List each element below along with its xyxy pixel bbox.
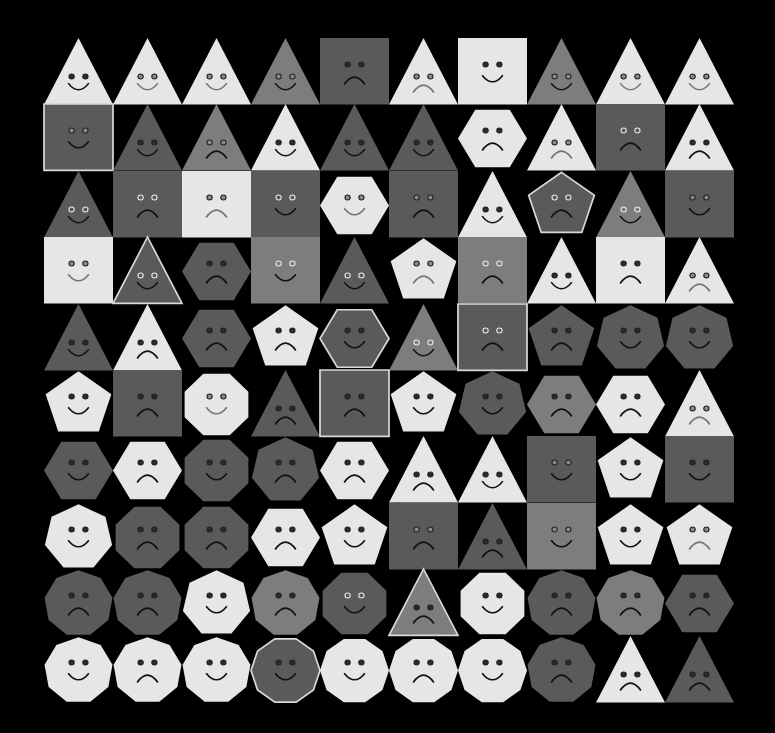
hexagon-icon [320,304,389,370]
decagon-happy-face [458,636,527,702]
eye-icon [621,128,626,133]
nonagon-icon [44,636,113,702]
nonagon-sad-face [113,569,182,635]
square-icon [458,237,527,303]
square-icon [44,237,113,303]
eye-icon [704,140,709,145]
eye-icon [276,406,281,411]
triangle-icon [458,503,527,569]
triangle-icon [389,104,458,170]
heptagon-icon [665,304,734,370]
eye-icon [207,593,212,598]
eye-icon [414,195,419,200]
eye-icon [483,128,488,133]
triangle-happy-face [596,38,665,104]
triangle-sad-face [458,503,527,569]
square-happy-face [527,503,596,569]
pentagon-happy-face [44,370,113,436]
eye-icon [290,460,295,465]
triangle-icon [113,237,182,303]
heptagon-icon [596,304,665,370]
hexagon-icon [44,436,113,502]
eye-icon [152,527,157,532]
square-happy-face [251,171,320,237]
eye-icon [276,660,281,665]
nonagon-sad-face [527,636,596,702]
heptagon-icon [458,370,527,436]
nonagon-sad-face [527,569,596,635]
triangle-sad-face [527,104,596,170]
triangle-happy-face [44,38,113,104]
eye-icon [428,527,433,532]
eye-icon [359,273,364,278]
eye-icon [428,340,433,345]
eye-icon [83,460,88,465]
eye-icon [207,328,212,333]
triangle-icon [113,304,182,370]
square-happy-face [458,38,527,104]
eye-icon [83,261,88,266]
square-icon [458,38,527,104]
heptagon-icon [251,436,320,502]
nonagon-icon [44,569,113,635]
triangle-happy-face [320,237,389,303]
eye-icon [414,340,419,345]
eye-icon [566,195,571,200]
eye-icon [635,672,640,677]
eye-icon [414,472,419,477]
hexagon-sad-face [182,304,251,370]
triangle-sad-face [665,237,734,303]
eye-icon [497,261,502,266]
eye-icon [635,328,640,333]
eye-icon [635,207,640,212]
eye-icon [290,140,295,145]
square-sad-face [596,104,665,170]
eye-icon [221,261,226,266]
pentagon-icon [527,171,596,237]
eye-icon [566,140,571,145]
triangle-happy-face [113,38,182,104]
eye-icon [83,394,88,399]
nonagon-icon [113,636,182,702]
hexagon-icon [665,569,734,635]
eye-icon [276,195,281,200]
square-icon [665,436,734,502]
eye-icon [359,660,364,665]
heptagon-icon [182,569,251,635]
hexagon-icon [458,104,527,170]
eye-icon [83,207,88,212]
pentagon-happy-face [596,503,665,569]
pentagon-sad-face [665,503,734,569]
square-sad-face [113,370,182,436]
eye-icon [428,472,433,477]
nonagon-happy-face [182,636,251,702]
hexagon-sad-face [665,569,734,635]
square-sad-face [113,171,182,237]
eye-icon [690,74,695,79]
triangle-icon [527,38,596,104]
eye-icon [621,261,626,266]
triangle-icon [113,104,182,170]
eye-icon [276,527,281,532]
octagon-happy-face [182,370,251,436]
shape-face-grid [44,38,734,702]
eye-icon [483,394,488,399]
octagon-sad-face [113,503,182,569]
nonagon-icon [527,569,596,635]
heptagon-happy-face [665,304,734,370]
triangle-icon [251,370,320,436]
eye-icon [290,328,295,333]
eye-icon [566,593,571,598]
eye-icon [359,394,364,399]
eye-icon [276,140,281,145]
eye-icon [428,394,433,399]
triangle-happy-face [665,38,734,104]
decagon-icon [458,636,527,702]
octagon-icon [113,503,182,569]
eye-icon [138,195,143,200]
triangle-sad-face [665,104,734,170]
eye-icon [552,593,557,598]
hexagon-sad-face [458,104,527,170]
square-icon [182,171,251,237]
nonagon-icon [251,569,320,635]
